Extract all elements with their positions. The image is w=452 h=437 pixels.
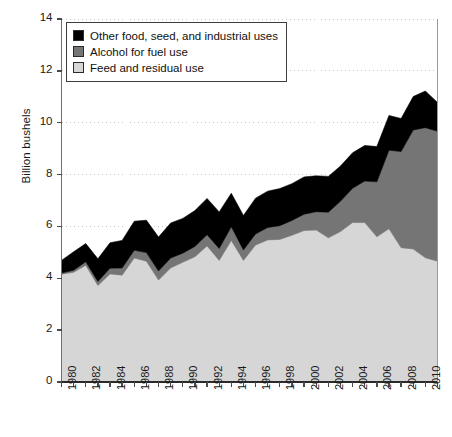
- x-tick-label: 1994: [236, 366, 248, 390]
- y-tick-label: 8: [23, 167, 53, 179]
- x-tick-label: 1980: [66, 366, 78, 390]
- legend-swatch-icon: [73, 46, 84, 57]
- legend-label: Other food, seed, and industrial uses: [90, 30, 278, 42]
- stacked-areas: [62, 91, 438, 382]
- y-tick-label: 12: [23, 63, 53, 75]
- legend-label: Alcohol for fuel use: [90, 46, 188, 58]
- chart-legend: Other food, seed, and industrial usesAlc…: [66, 22, 287, 82]
- legend-swatch-icon: [73, 30, 84, 41]
- legend-label: Feed and residual use: [90, 62, 204, 74]
- x-tick-label: 1988: [163, 366, 175, 390]
- legend-item: Feed and residual use: [73, 60, 278, 75]
- x-tick-label: 2002: [333, 366, 345, 390]
- x-tick-label: 1996: [260, 366, 272, 390]
- legend-swatch-icon: [73, 62, 84, 73]
- y-tick-label: 14: [23, 11, 53, 23]
- y-tick-label: 4: [23, 270, 53, 282]
- x-tick-label: 2004: [357, 366, 369, 390]
- x-tick-label: 2010: [430, 366, 442, 390]
- x-tick-label: 1982: [90, 366, 102, 390]
- chart-figure: Billion bushels 02468101214 198019821984…: [0, 0, 452, 437]
- x-tick-label: 1984: [115, 366, 127, 390]
- x-tick-label: 1986: [139, 366, 151, 390]
- legend-item: Other food, seed, and industrial uses: [73, 28, 278, 43]
- y-tick-label: 0: [23, 374, 53, 386]
- legend-item: Alcohol for fuel use: [73, 44, 278, 59]
- y-tick-label: 6: [23, 218, 53, 230]
- x-tick-label: 2000: [309, 366, 321, 390]
- y-tick-label: 2: [23, 322, 53, 334]
- y-tick-label: 10: [23, 115, 53, 127]
- x-tick-label: 2006: [381, 366, 393, 390]
- x-tick-label: 1990: [187, 366, 199, 390]
- x-tick-label: 2008: [406, 366, 418, 390]
- x-tick-label: 1998: [284, 366, 296, 390]
- x-tick-label: 1992: [212, 366, 224, 390]
- y-axis-label: Billion bushels: [20, 76, 32, 216]
